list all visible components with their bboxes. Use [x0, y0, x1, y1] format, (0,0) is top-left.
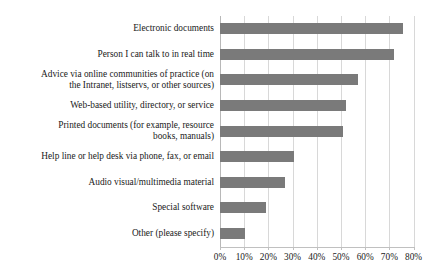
category-label: Special software	[4, 195, 214, 221]
category-label-line: Electronic documents	[4, 23, 214, 34]
category-label: Advice via online communities of practic…	[4, 67, 214, 93]
x-axis-tick	[341, 247, 342, 250]
bar	[220, 228, 245, 239]
bar	[220, 202, 266, 213]
category-label: Web-based utility, directory, or service	[4, 93, 214, 119]
bar-row	[220, 67, 358, 93]
category-label-line: books, manuals)	[4, 131, 214, 142]
bar-row	[220, 16, 403, 42]
horizontal-bar-chart: Electronic documentsPerson I can talk to…	[0, 0, 440, 280]
category-labels-layer: Electronic documentsPerson I can talk to…	[0, 16, 214, 247]
x-axis-tick-label: 80%	[399, 252, 429, 262]
bar-row	[220, 195, 266, 221]
x-axis-tick	[268, 247, 269, 250]
bar	[220, 177, 285, 188]
x-axis-tick	[220, 247, 221, 250]
bar	[220, 151, 294, 162]
category-label-line: Web-based utility, directory, or service	[4, 100, 214, 111]
category-label: Electronic documents	[4, 16, 214, 42]
x-axis-tick	[317, 247, 318, 250]
category-label-line: Audio visual/multimedia material	[4, 177, 214, 188]
category-label-line: the Intranet, listservs, or other source…	[4, 80, 214, 91]
category-label-line: Other (please specify)	[4, 228, 214, 239]
bar-row	[220, 93, 346, 119]
x-axis-tick	[389, 247, 390, 250]
category-label: Printed documents (for example, resource…	[4, 118, 214, 144]
bar	[220, 74, 358, 85]
x-axis-tick	[365, 247, 366, 250]
bar	[220, 126, 343, 137]
x-axis-tick	[414, 247, 415, 250]
category-label: Audio visual/multimedia material	[4, 170, 214, 196]
bar	[220, 100, 346, 111]
bar-row	[220, 144, 294, 170]
category-label-line: Special software	[4, 202, 214, 213]
category-label-line: Person I can talk to in real time	[4, 49, 214, 60]
category-label: Person I can talk to in real time	[4, 42, 214, 68]
x-axis-tick	[293, 247, 294, 250]
bar-row	[220, 118, 343, 144]
bars-layer	[220, 16, 440, 247]
bar-row	[220, 221, 245, 247]
bar-row	[220, 170, 285, 196]
category-label-line: Advice via online communities of practic…	[4, 69, 214, 80]
category-label-line: Help line or help desk via phone, fax, o…	[4, 151, 214, 162]
category-label-line: Printed documents (for example, resource	[4, 120, 214, 131]
category-label: Other (please specify)	[4, 221, 214, 247]
category-label: Help line or help desk via phone, fax, o…	[4, 144, 214, 170]
bar-row	[220, 42, 394, 68]
bar	[220, 49, 394, 60]
x-axis-tick	[244, 247, 245, 250]
bar	[220, 23, 403, 34]
